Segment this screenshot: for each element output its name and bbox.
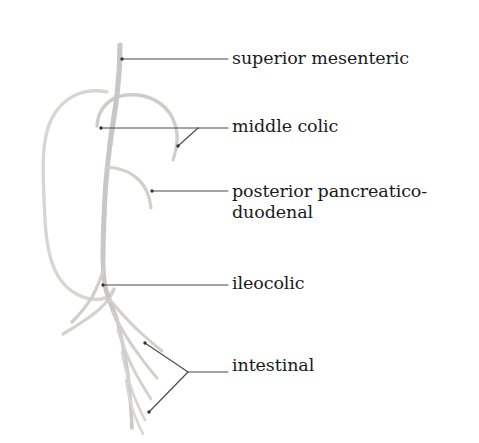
vessel-group bbox=[43, 45, 177, 434]
label-middle-colic: middle colic bbox=[232, 116, 338, 137]
label-ileocolic: ileocolic bbox=[232, 273, 305, 294]
leader-intestinal-branch-lower bbox=[149, 372, 188, 412]
leader-dot-posterior-pancreaticoduodenal bbox=[150, 189, 153, 192]
leader-dot-middle-colic-left bbox=[99, 126, 102, 129]
superior-mesenteric-trunk-upper-vessel bbox=[110, 45, 120, 144]
label-intestinal: intestinal bbox=[232, 355, 314, 376]
leader-intestinal-branch-upper bbox=[145, 343, 188, 372]
label-posterior-pancreaticoduodenal-line2: duodenal bbox=[232, 202, 427, 223]
leader-dot-ileocolic bbox=[101, 283, 104, 286]
label-posterior-pancreaticoduodenal-line1: posterior pancreatico- bbox=[232, 181, 427, 201]
posterior-pancreaticoduodenal-vessel bbox=[108, 167, 151, 208]
superior-mesenteric-trunk-middle-vessel bbox=[103, 144, 110, 258]
label-superior-mesenteric: superior mesenteric bbox=[232, 48, 409, 69]
label-posterior-pancreaticoduodenal: posterior pancreatico-duodenal bbox=[232, 181, 427, 223]
leader-dot-middle-colic-lower bbox=[176, 144, 179, 147]
leader-dot-intestinal-upper bbox=[143, 341, 146, 344]
leader-line-group bbox=[99, 57, 228, 413]
leader-middle-colic-branch-diagonal bbox=[178, 128, 198, 146]
leader-dot-intestinal-lower bbox=[147, 410, 150, 413]
intestinal-branch-2-vessel bbox=[113, 312, 157, 378]
leader-dot-superior-mesenteric bbox=[120, 57, 123, 60]
middle-colic-hook-vessel bbox=[173, 149, 176, 160]
